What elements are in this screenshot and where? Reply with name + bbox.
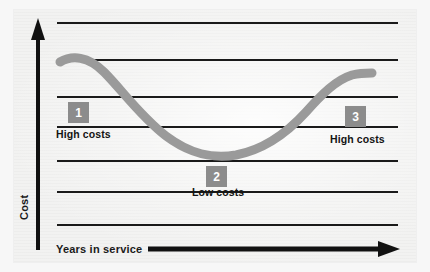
callout-label-2: Low costs xyxy=(192,186,244,198)
figure-root: Cost Years in service 1 2 3 High costs L… xyxy=(0,0,430,272)
x-axis-arrow-icon xyxy=(148,241,400,257)
callout-label-3: High costs xyxy=(330,133,385,145)
callout-badge-2: 2 xyxy=(206,166,227,187)
callout-badge-3: 3 xyxy=(345,106,366,127)
cost-curve xyxy=(60,58,372,156)
y-axis-arrow-icon xyxy=(31,18,45,250)
callout-badge-1: 1 xyxy=(68,102,89,123)
callout-label-1: High costs xyxy=(56,128,111,140)
y-axis-label: Cost xyxy=(18,174,30,220)
x-axis-label: Years in service xyxy=(56,243,142,255)
